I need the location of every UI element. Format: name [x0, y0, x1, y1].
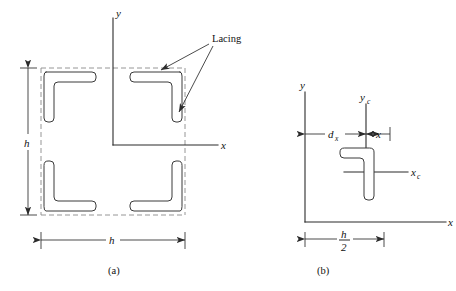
panel-b: y x y c x c	[299, 79, 453, 277]
panel-b-y-axis-label: y	[299, 79, 305, 91]
angle-detail	[340, 148, 374, 200]
figure-svg: y x	[0, 0, 456, 291]
dx-label-subscript: x	[334, 134, 339, 143]
panel-b-x-offset-label: x	[375, 128, 381, 140]
panel-a-width-label: h	[109, 234, 115, 246]
angle-top-right	[130, 72, 182, 122]
panel-b-xc-axis-label: x c	[410, 166, 421, 181]
xc-axis-label-base: x	[410, 166, 416, 178]
half-width-denominator: 2	[341, 241, 347, 253]
angle-bottom-right	[130, 161, 182, 211]
half-width-numerator: h	[341, 228, 347, 240]
yc-axis-label-subscript: c	[367, 97, 371, 106]
panel-a-height-label: h	[24, 137, 30, 149]
dx-label-base: d	[328, 128, 334, 140]
angle-bottom-left	[44, 161, 96, 211]
panel-b-caption: (b)	[317, 265, 330, 277]
panel-a-y-axis-label: y	[115, 7, 121, 19]
lacing-label: Lacing	[212, 33, 242, 44]
figure-root: y x	[0, 0, 456, 291]
angle-top-left	[44, 72, 96, 122]
panel-a-caption: (a)	[108, 265, 120, 277]
panel-b-yc-axis-label: y c	[359, 91, 371, 106]
lacing-arrow-top	[161, 44, 209, 70]
panel-a: y x	[20, 7, 242, 277]
lacing-arrow-right	[179, 46, 213, 112]
panel-a-x-axis-label: x	[220, 139, 226, 151]
yc-axis-label-base: y	[359, 91, 365, 103]
xc-axis-label-subscript: c	[417, 172, 421, 181]
panel-b-x-axis-label: x	[447, 216, 453, 228]
